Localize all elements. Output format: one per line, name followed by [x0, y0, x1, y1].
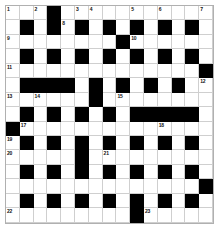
- grid-cell[interactable]: 20: [6, 150, 20, 164]
- grid-cell[interactable]: [130, 122, 144, 136]
- grid-cell[interactable]: 3: [75, 6, 89, 20]
- grid-cell[interactable]: [158, 93, 172, 107]
- grid-cell[interactable]: [172, 208, 186, 222]
- grid-cell[interactable]: [144, 49, 158, 63]
- grid-cell[interactable]: [185, 64, 199, 78]
- grid-cell[interactable]: [116, 150, 130, 164]
- grid-cell[interactable]: [89, 208, 103, 222]
- grid-cell[interactable]: [20, 64, 34, 78]
- grid-cell[interactable]: [75, 179, 89, 193]
- grid-cell[interactable]: [34, 49, 48, 63]
- grid-cell[interactable]: [47, 64, 61, 78]
- grid-cell[interactable]: [6, 107, 20, 121]
- grid-cell[interactable]: [172, 49, 186, 63]
- grid-cell[interactable]: [185, 208, 199, 222]
- grid-cell[interactable]: [172, 194, 186, 208]
- grid-cell[interactable]: [34, 107, 48, 121]
- grid-cell[interactable]: [116, 208, 130, 222]
- grid-cell[interactable]: [34, 35, 48, 49]
- grid-cell[interactable]: [130, 93, 144, 107]
- grid-cell[interactable]: [89, 150, 103, 164]
- grid-cell[interactable]: [89, 49, 103, 63]
- grid-cell[interactable]: [75, 208, 89, 222]
- grid-cell[interactable]: [185, 179, 199, 193]
- grid-cell[interactable]: [61, 93, 75, 107]
- grid-cell[interactable]: 1: [6, 6, 20, 20]
- grid-cell[interactable]: [20, 93, 34, 107]
- grid-cell[interactable]: [75, 64, 89, 78]
- grid-cell[interactable]: [185, 150, 199, 164]
- grid-cell[interactable]: [89, 165, 103, 179]
- grid-cell[interactable]: 5: [130, 6, 144, 20]
- grid-cell[interactable]: [6, 20, 20, 34]
- grid-cell[interactable]: [144, 122, 158, 136]
- grid-cell[interactable]: [61, 208, 75, 222]
- grid-cell[interactable]: [158, 78, 172, 92]
- grid-cell[interactable]: 23: [144, 208, 158, 222]
- grid-cell[interactable]: [61, 107, 75, 121]
- grid-cell[interactable]: [158, 35, 172, 49]
- grid-cell[interactable]: 14: [34, 93, 48, 107]
- grid-cell[interactable]: [172, 6, 186, 20]
- grid-cell[interactable]: [6, 49, 20, 63]
- grid-cell[interactable]: [172, 93, 186, 107]
- grid-cell[interactable]: [103, 6, 117, 20]
- grid-cell[interactable]: [103, 122, 117, 136]
- grid-cell[interactable]: [158, 208, 172, 222]
- grid-cell[interactable]: [144, 35, 158, 49]
- grid-cell[interactable]: [75, 122, 89, 136]
- grid-cell[interactable]: [75, 78, 89, 92]
- grid-cell[interactable]: [20, 208, 34, 222]
- grid-cell[interactable]: 18: [158, 122, 172, 136]
- grid-cell[interactable]: [47, 150, 61, 164]
- grid-cell[interactable]: [34, 208, 48, 222]
- grid-cell[interactable]: 2: [34, 6, 48, 20]
- grid-cell[interactable]: [75, 35, 89, 49]
- grid-cell[interactable]: [47, 208, 61, 222]
- grid-cell[interactable]: [6, 165, 20, 179]
- grid-cell[interactable]: [130, 179, 144, 193]
- grid-cell[interactable]: [61, 122, 75, 136]
- grid-cell[interactable]: [116, 107, 130, 121]
- grid-cell[interactable]: [116, 194, 130, 208]
- grid-cell[interactable]: 22: [6, 208, 20, 222]
- grid-cell[interactable]: [158, 179, 172, 193]
- grid-cell[interactable]: [103, 93, 117, 107]
- grid-cell[interactable]: [144, 179, 158, 193]
- grid-cell[interactable]: [20, 179, 34, 193]
- grid-cell[interactable]: [199, 194, 213, 208]
- grid-cell[interactable]: 10: [130, 35, 144, 49]
- grid-cell[interactable]: [172, 20, 186, 34]
- grid-cell[interactable]: [185, 78, 199, 92]
- grid-cell[interactable]: 7: [199, 6, 213, 20]
- grid-cell[interactable]: [199, 20, 213, 34]
- grid-cell[interactable]: [89, 35, 103, 49]
- grid-cell[interactable]: [34, 165, 48, 179]
- grid-cell[interactable]: [144, 64, 158, 78]
- grid-cell[interactable]: [172, 122, 186, 136]
- grid-cell[interactable]: [34, 150, 48, 164]
- grid-cell[interactable]: 12: [199, 78, 213, 92]
- grid-cell[interactable]: [144, 150, 158, 164]
- crossword-grid[interactable]: 12345678910111213141517181920212223: [5, 5, 214, 224]
- grid-cell[interactable]: [116, 179, 130, 193]
- grid-cell[interactable]: [130, 64, 144, 78]
- grid-cell[interactable]: [199, 122, 213, 136]
- grid-cell[interactable]: [34, 64, 48, 78]
- grid-cell[interactable]: [144, 6, 158, 20]
- grid-cell[interactable]: [199, 165, 213, 179]
- grid-cell[interactable]: [61, 35, 75, 49]
- grid-cell[interactable]: [199, 136, 213, 150]
- grid-cell[interactable]: [6, 78, 20, 92]
- grid-cell[interactable]: [89, 107, 103, 121]
- grid-cell[interactable]: [34, 136, 48, 150]
- grid-cell[interactable]: [185, 35, 199, 49]
- grid-cell[interactable]: [144, 20, 158, 34]
- grid-cell[interactable]: 4: [89, 6, 103, 20]
- grid-cell[interactable]: [61, 6, 75, 20]
- grid-cell[interactable]: [144, 93, 158, 107]
- grid-cell[interactable]: [34, 20, 48, 34]
- grid-cell[interactable]: [47, 122, 61, 136]
- grid-cell[interactable]: [144, 136, 158, 150]
- grid-cell[interactable]: 6: [158, 6, 172, 20]
